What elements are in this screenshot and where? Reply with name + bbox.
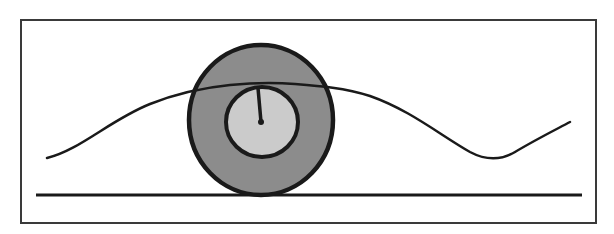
wheel-diagram [0, 0, 614, 234]
diagram-canvas: Wheel rolling over wavy bump on a flat s… [0, 0, 614, 234]
wheel [47, 45, 570, 195]
wheel-axle-dot [258, 119, 264, 125]
